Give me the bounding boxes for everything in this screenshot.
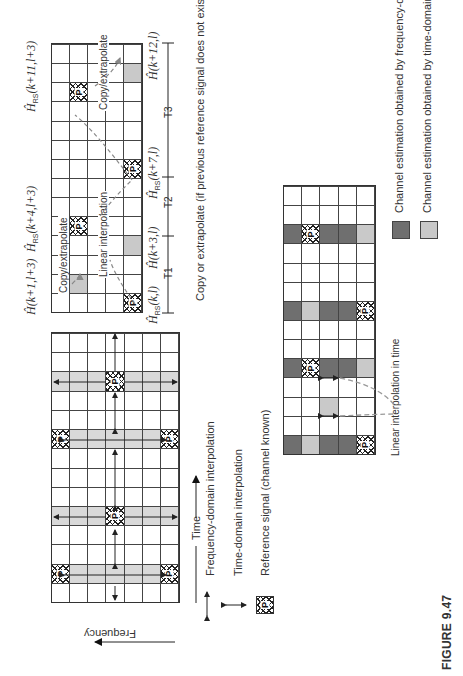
grid-cell — [284, 263, 302, 282]
grid-cell — [302, 282, 320, 301]
grid-cell — [88, 448, 106, 467]
grid-cell — [125, 583, 143, 602]
grid-cell — [357, 416, 375, 435]
grid-cell — [357, 377, 375, 396]
grid-cell — [52, 63, 70, 82]
grid-cell — [125, 448, 143, 467]
grid-cell — [70, 235, 88, 254]
legend-label-time-domain: Channel estimation obtained by time-doma… — [421, 0, 433, 213]
grid-cell — [106, 159, 124, 178]
grid-cell — [70, 44, 88, 63]
grid-cell — [284, 301, 302, 320]
grid-cell — [143, 371, 161, 390]
grid-cell — [284, 416, 302, 435]
grid-cell — [339, 397, 357, 416]
copy-extrapolate-annotation-2: Copy/extrapolate — [98, 33, 109, 111]
grid-cell — [357, 320, 375, 339]
grid-cell — [302, 301, 320, 320]
grid-cell — [339, 377, 357, 396]
grid-cell — [106, 468, 124, 487]
grid-cell — [106, 583, 124, 602]
grid-cell — [161, 583, 179, 602]
grid-cell — [70, 121, 88, 140]
grid-cell — [357, 224, 375, 243]
grid-cell — [52, 544, 70, 563]
grid-cell — [52, 140, 70, 159]
reference-signal-cell: P — [357, 301, 375, 320]
grid-cell — [70, 255, 88, 274]
grid-cell — [284, 358, 302, 377]
grid-cell — [52, 583, 70, 602]
figure-caption: FIGURE 9.47 — [440, 595, 454, 670]
grid-cell — [302, 243, 320, 262]
grid-cell — [106, 410, 124, 429]
grid-cell — [339, 186, 357, 205]
grid-cell — [125, 429, 143, 448]
grid-cell — [106, 429, 124, 448]
grid-cell — [52, 448, 70, 467]
grid-cell — [70, 159, 88, 178]
grid-cell — [52, 121, 70, 140]
grid-cell — [52, 293, 70, 312]
grid-cell — [106, 333, 124, 352]
linear-interpolation-in-time-annotation: Linear interpolation in time — [390, 339, 401, 456]
grid-cell — [143, 391, 161, 410]
reference-signal-cell: P — [106, 506, 124, 525]
grid-cell — [88, 506, 106, 525]
grid-cell — [106, 564, 124, 583]
grid-cell — [143, 487, 161, 506]
grid-cell — [284, 224, 302, 243]
grid-cell — [70, 544, 88, 563]
grid-cell — [70, 371, 88, 390]
grid-cell — [320, 205, 338, 224]
grid-cell — [320, 282, 338, 301]
grid-cell — [88, 410, 106, 429]
time-interp-legend-label: Time-domain interpolation — [232, 449, 244, 576]
grid-cell — [302, 339, 320, 358]
grid-cell — [339, 263, 357, 282]
grid-cell — [320, 416, 338, 435]
grid-cell — [143, 429, 161, 448]
grid-cell — [70, 506, 88, 525]
grid-cell — [320, 263, 338, 282]
copy-extrapolate-note: Copy or extrapolate (if previous referen… — [194, 0, 206, 301]
grid-cell — [52, 410, 70, 429]
grid-cell — [125, 352, 143, 371]
reference-signal-legend-swatch: P — [256, 596, 274, 614]
reference-signal-cell: P — [106, 371, 124, 390]
grid-cell — [70, 140, 88, 159]
grid-cell — [161, 544, 179, 563]
grid-cell — [106, 525, 124, 544]
grid-cell — [70, 352, 88, 371]
grid-cell — [302, 397, 320, 416]
grid-cell — [124, 274, 142, 293]
reference-signal-cell: P — [357, 435, 375, 454]
grid-cell — [124, 197, 142, 216]
grid-cell — [357, 263, 375, 282]
reference-signal-cell: P — [161, 429, 179, 448]
legend-label-frequency-domain: Channel estimation obtained by frequency… — [393, 0, 405, 213]
grid-cell — [143, 333, 161, 352]
grid-cell — [70, 274, 88, 293]
grid-cell — [339, 358, 357, 377]
grid-cell — [284, 435, 302, 454]
grid-cell — [161, 352, 179, 371]
grid-cell — [302, 416, 320, 435]
grid-cell — [106, 544, 124, 563]
reference-signal-cell: P — [302, 358, 320, 377]
grid-cell — [52, 333, 70, 352]
grid-cell — [125, 564, 143, 583]
grid-cell — [320, 243, 338, 262]
grid-cell — [124, 255, 142, 274]
grid-cell — [70, 410, 88, 429]
grid-cell — [302, 435, 320, 454]
grid-cell — [302, 205, 320, 224]
grid-cell — [124, 101, 142, 120]
grid-cell — [106, 121, 124, 140]
grid-cell — [161, 487, 179, 506]
grid-cell — [88, 121, 106, 140]
grid-cell — [320, 435, 338, 454]
grid-cell — [88, 429, 106, 448]
grid-cell — [70, 429, 88, 448]
grid-cell — [70, 448, 88, 467]
